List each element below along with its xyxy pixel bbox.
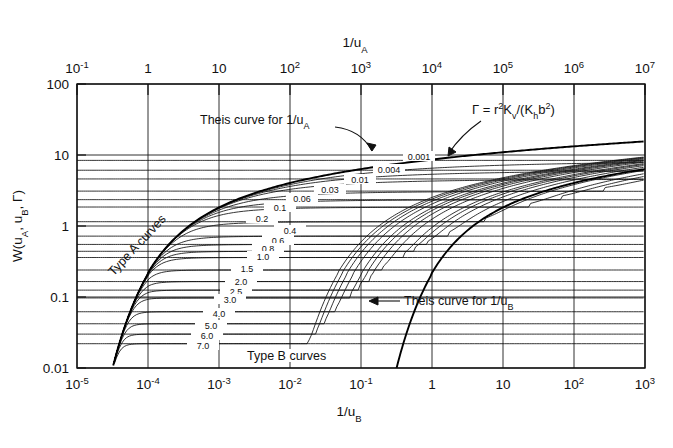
theis-ua-label-base: Theis curve for 1/u (200, 113, 304, 127)
tick-label-base: 10 (635, 377, 650, 392)
tick-label-exponent: 3 (366, 59, 371, 70)
type-curve-chart: 10-111010210310410510610710-510-410-310-… (0, 0, 673, 448)
gamma-value-label: 2.0 (235, 277, 248, 287)
tick-label-exponent: 2 (579, 375, 584, 386)
bottom-axis-tick-label: 10-4 (136, 375, 159, 393)
left-axis-tick-label: 0.1 (50, 290, 69, 305)
gamma-value-label: 0.1 (274, 203, 287, 213)
gamma-formula-part: /(K (517, 102, 534, 117)
bottom-axis-tick-label: 10-5 (65, 375, 88, 393)
top-axis-tick-label: 1 (144, 61, 152, 76)
bottom-axis-tick-label: 1 (428, 377, 436, 392)
tick-label-exponent: -3 (222, 375, 230, 386)
theis-ub-label-base: Theis curve for 1/u (404, 294, 508, 308)
gamma-value-label: 0.004 (378, 165, 401, 175)
tick-label-base: 10 (351, 61, 366, 76)
tick-label-base: 10 (280, 61, 295, 76)
gamma-formula-label: Γ = r2Kv/(Khb2) (472, 101, 555, 121)
tick-label-base: 10 (211, 61, 226, 76)
top-axis-tick-label: 103 (351, 59, 371, 77)
gamma-value-label: 0.01 (351, 175, 369, 185)
gamma-value-label: 1.0 (257, 252, 270, 262)
bottom-axis-tick-label: 103 (635, 375, 655, 393)
left-axis-tick-label: 1 (61, 219, 69, 234)
left-axis-tick-label: 10 (54, 148, 69, 163)
gamma-formula-part: Γ = r (472, 102, 499, 117)
top-axis-tick-label: 106 (564, 59, 584, 77)
top-axis-title-subscript: A (361, 44, 368, 55)
type-b-curve (77, 157, 644, 344)
theis-ub-label-subscript: B (508, 302, 514, 312)
left-axis-title-part: , (10, 202, 25, 210)
gamma-formula-part: ) (550, 102, 554, 117)
left-axis-tick-label: 100 (46, 77, 69, 92)
bottom-axis-title-base: 1/u (336, 404, 355, 419)
tick-label-exponent: -5 (80, 375, 88, 386)
figure-root: 10-111010210310410510610710-510-410-310-… (0, 0, 673, 448)
left-axis-title-part: W(u (10, 237, 25, 262)
tick-label-base: 10 (422, 61, 437, 76)
top-axis-tick-label: 104 (422, 59, 442, 77)
theis-curve-ub (397, 169, 646, 368)
gamma-value-label: 4.0 (213, 309, 226, 319)
theis-ua-arrowhead (367, 143, 376, 151)
tick-label-base: 10 (635, 61, 650, 76)
theis-curve-ub-label: Theis curve for 1/uB (404, 294, 514, 312)
tick-label-exponent: -1 (364, 375, 372, 386)
top-axis-tick-label: 10-1 (65, 59, 88, 77)
tick-label-base: 10 (349, 377, 364, 392)
theis-curve-ua-label: Theis curve for 1/uA (200, 113, 310, 131)
bottom-axis-title-subscript: B (355, 413, 361, 424)
gamma-value-label: 5.0 (205, 321, 218, 331)
tick-label-base: 10 (495, 377, 510, 392)
bottom-axis-tick-label: 10 (495, 377, 510, 392)
tick-label-exponent: 3 (650, 375, 655, 386)
left-axis-title-part: ) (10, 190, 25, 195)
tick-label-base: 10 (564, 377, 579, 392)
tick-label-base: 10 (207, 377, 222, 392)
top-axis-tick-label: 107 (635, 59, 655, 77)
top-axis-title-base: 1/u (342, 35, 361, 50)
gamma-value-label: 6.0 (201, 331, 214, 341)
left-axis-title: W(uA, uB, Γ) (10, 190, 30, 262)
gamma-value-label: 0.2 (256, 214, 269, 224)
tick-label-base: 10 (278, 377, 293, 392)
tick-label-exponent: -2 (293, 375, 301, 386)
tick-label-base: 10 (493, 61, 508, 76)
bottom-axis-tick-label: 102 (564, 375, 584, 393)
tick-label-exponent: 5 (508, 59, 513, 70)
bottom-axis-tick-label: 10-1 (349, 375, 372, 393)
gamma-value-label: 7.0 (197, 341, 210, 351)
type-a-curve (114, 298, 643, 362)
bottom-axis-title: 1/uB (336, 404, 361, 424)
gamma-value-label: 0.03 (321, 185, 339, 195)
gamma-value-label: 3.0 (224, 295, 237, 305)
left-axis-tick-label: 0.01 (43, 361, 69, 376)
left-axis-title-part: , u (10, 216, 25, 231)
tick-label-exponent: -4 (151, 375, 159, 386)
gamma-value-label: 0.001 (408, 152, 431, 162)
tick-label-base: 10 (65, 377, 80, 392)
gamma-formula-part: K (503, 102, 512, 117)
tick-label-exponent: 7 (650, 59, 655, 70)
gamma-formula-leader-line (449, 121, 481, 153)
theis-ua-leader-line (335, 127, 372, 151)
bottom-axis-tick-label: 10-3 (207, 375, 230, 393)
gamma-formula-part: b (538, 102, 545, 117)
top-axis-tick-label: 102 (280, 59, 300, 77)
tick-label-base: 10 (136, 377, 151, 392)
tick-label-base: 1 (428, 377, 436, 392)
tick-label-exponent: 6 (579, 59, 584, 70)
gamma-value-label: 0.4 (284, 226, 297, 236)
top-axis-title: 1/uA (342, 35, 368, 55)
tick-label-base: 1 (144, 61, 152, 76)
tick-label-exponent: 2 (295, 59, 300, 70)
tick-label-exponent: -1 (80, 59, 88, 70)
theis-ua-label-subscript: A (304, 121, 310, 131)
gamma-value-label: 1.5 (241, 264, 254, 274)
tick-label-base: 10 (65, 61, 80, 76)
top-axis-tick-label: 10 (211, 61, 226, 76)
bottom-axis-tick-label: 10-2 (278, 375, 301, 393)
tick-label-base: 10 (564, 61, 579, 76)
top-axis-tick-label: 105 (493, 59, 513, 77)
